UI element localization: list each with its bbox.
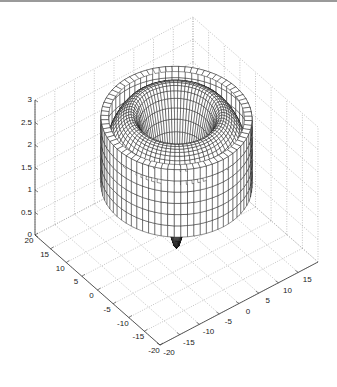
mesh-face [174, 108, 177, 119]
mesh-face [206, 198, 212, 211]
mesh-face [170, 83, 174, 86]
x-tick-label: -10 [203, 327, 215, 336]
mesh-face [177, 108, 180, 119]
mesh-face [200, 188, 206, 201]
mesh-face [188, 214, 194, 226]
x-tick [236, 302, 239, 304]
mesh-face [161, 202, 168, 214]
y-tick-label: 15 [40, 250, 49, 259]
mesh-face [168, 214, 175, 226]
mesh-face [206, 175, 212, 188]
mesh-surface [101, 66, 252, 248]
mesh-face [174, 98, 177, 108]
mesh-face [161, 191, 168, 203]
mesh-face [174, 85, 178, 90]
mesh-face [170, 156, 175, 161]
mesh-face [143, 220, 149, 233]
mesh-face [174, 83, 178, 86]
mesh-face [175, 156, 180, 161]
mesh-face [149, 199, 155, 212]
mesh-face [179, 66, 186, 72]
mesh-face [167, 86, 171, 92]
mesh-face [180, 156, 185, 161]
mesh-face [143, 209, 149, 222]
mesh-face [174, 203, 181, 214]
mesh-face [155, 167, 161, 179]
mesh-face [171, 91, 175, 99]
mesh-face [172, 66, 179, 71]
mesh-face [244, 120, 252, 125]
y-tick [35, 233, 38, 235]
x-tick-label: 5 [266, 296, 271, 305]
mesh-face [168, 169, 175, 181]
z-tick [35, 213, 38, 215]
x-tick-label: -20 [163, 348, 175, 357]
mesh-face [200, 166, 206, 179]
y-tick-label: 5 [74, 277, 79, 286]
x-tick-label: 0 [246, 307, 251, 316]
mesh-face [175, 145, 179, 147]
z-tick-label: 0.5 [21, 208, 33, 217]
mesh-face [149, 211, 155, 224]
mesh-face [168, 192, 175, 204]
x-tick-label: 10 [283, 286, 292, 295]
mesh-face [175, 152, 180, 156]
mesh-face [161, 225, 168, 237]
mesh-face [200, 222, 206, 235]
mesh-face [194, 201, 200, 213]
mesh-face [170, 152, 175, 156]
mesh-face [171, 98, 174, 108]
mesh-face [181, 192, 188, 204]
x-tick [197, 322, 200, 324]
mesh-face [168, 180, 175, 192]
mesh-face [166, 83, 170, 86]
mesh-face [181, 203, 188, 215]
y-tick [98, 288, 101, 290]
z-tick [35, 145, 38, 147]
y-tick [82, 274, 85, 276]
mesh-face [143, 186, 149, 199]
mesh-face [161, 168, 168, 180]
mesh-face [167, 144, 171, 147]
z-tick [35, 168, 38, 170]
mesh-face [179, 146, 184, 149]
y-tick [51, 247, 54, 249]
mesh-face [178, 83, 182, 86]
mesh-face [206, 209, 212, 222]
mesh-face [168, 203, 175, 215]
mesh-face [194, 167, 200, 179]
mesh-face [174, 192, 181, 203]
y-tick [113, 302, 116, 304]
mesh-face [170, 85, 174, 91]
mesh-face [188, 225, 194, 237]
mesh-face [172, 132, 175, 146]
x-tick [216, 312, 219, 314]
z-tick-label: 2 [28, 140, 33, 149]
y-tick [129, 316, 132, 318]
mesh-face [174, 170, 181, 181]
mesh-face [179, 149, 184, 153]
x-tick [295, 270, 298, 272]
mesh-face [170, 149, 175, 153]
mesh-face [188, 202, 194, 214]
mesh-face [174, 91, 178, 99]
mesh-face [172, 119, 175, 132]
mesh-face [243, 107, 252, 112]
y-tick-label: -15 [133, 332, 145, 341]
y-tick-label: 20 [25, 236, 34, 245]
mesh-face [206, 187, 212, 200]
y-tick-label: -10 [117, 319, 129, 328]
mesh-face [178, 98, 181, 108]
mesh-face [188, 191, 194, 203]
y-tick-label: -5 [104, 305, 112, 314]
mesh-face [149, 222, 155, 235]
z-tick [35, 123, 38, 125]
z-tick-label: 1.5 [21, 163, 33, 172]
mesh-face [161, 180, 168, 192]
mesh-face [175, 119, 178, 132]
y-tick-label: 0 [89, 291, 94, 300]
mesh-face [166, 66, 173, 71]
y-tick [66, 261, 69, 263]
x-tick-label: -15 [183, 338, 195, 347]
mesh-face [167, 91, 171, 99]
